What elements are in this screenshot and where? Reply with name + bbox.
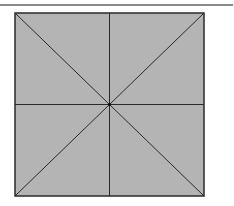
center-point: [108, 103, 111, 106]
square-diagram: [0, 0, 234, 206]
